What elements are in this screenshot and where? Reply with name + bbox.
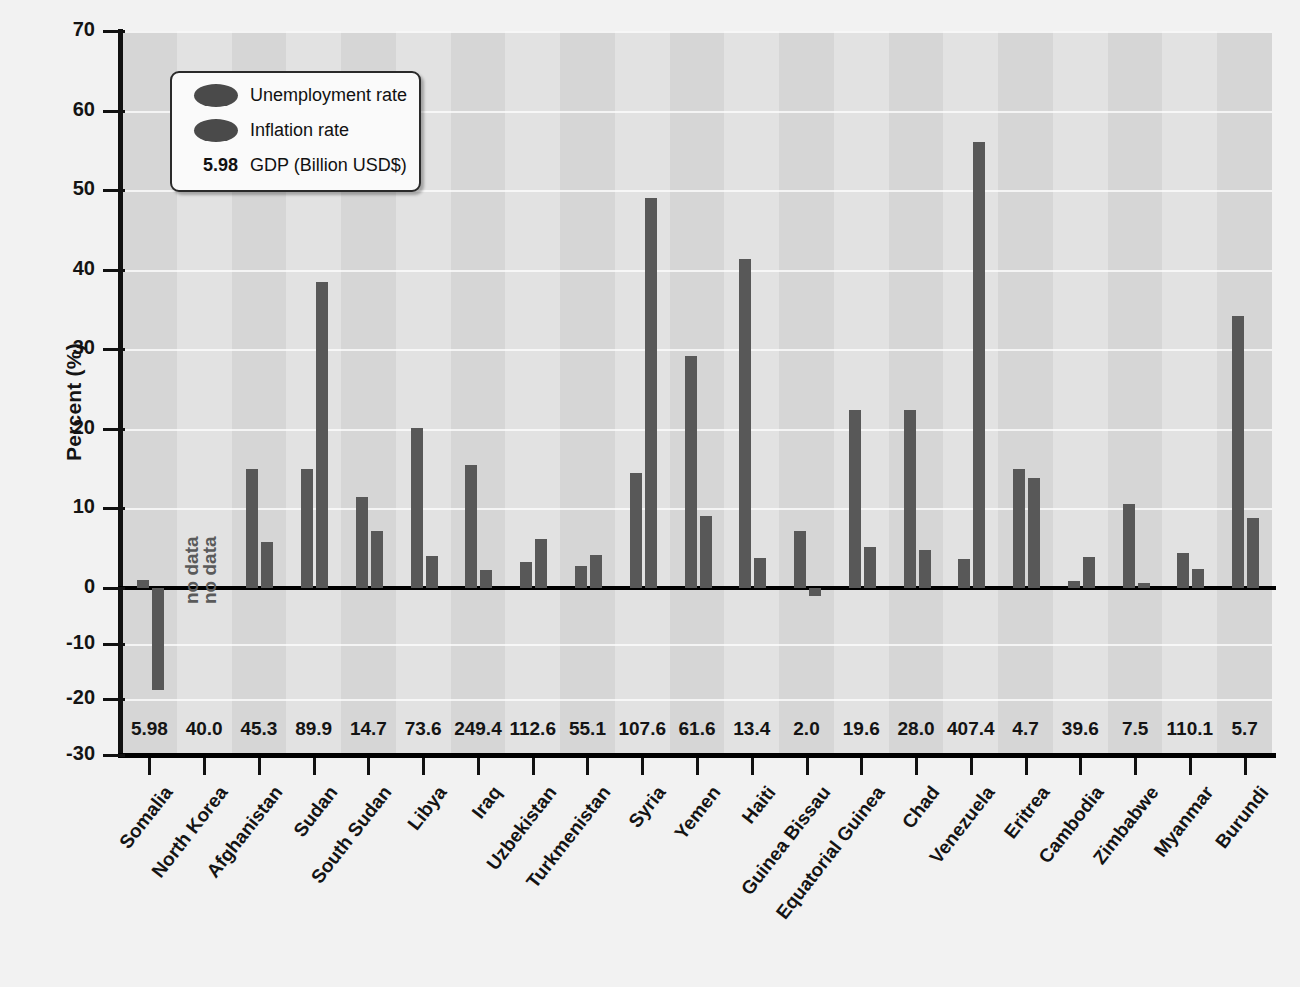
bar bbox=[1192, 569, 1204, 588]
legend-label: GDP (Billion USD$) bbox=[250, 155, 407, 176]
bar bbox=[465, 465, 477, 588]
bar bbox=[316, 282, 328, 588]
x-axis-tick bbox=[1189, 758, 1192, 775]
bar bbox=[1013, 469, 1025, 588]
gridline bbox=[122, 644, 1272, 646]
x-axis-label: Sudan bbox=[289, 782, 342, 841]
bar bbox=[411, 428, 423, 588]
gdp-value: 19.6 bbox=[843, 718, 880, 740]
legend-label: Unemployment rate bbox=[250, 85, 407, 106]
legend-swatch-icon bbox=[194, 119, 238, 142]
bar bbox=[958, 559, 970, 588]
bar bbox=[1247, 518, 1259, 588]
bar bbox=[645, 198, 657, 588]
y-axis-tick bbox=[103, 754, 125, 757]
y-axis-line bbox=[118, 29, 123, 757]
bar bbox=[809, 588, 821, 596]
gridline bbox=[122, 270, 1272, 272]
plot-band bbox=[505, 31, 560, 588]
gdp-value: 45.3 bbox=[240, 718, 277, 740]
clipped-top-text bbox=[0, 0, 1300, 8]
y-axis-tick bbox=[103, 110, 125, 113]
y-axis-tick-label: -30 bbox=[10, 742, 95, 765]
bar bbox=[1232, 316, 1244, 588]
y-axis-tick-label: -10 bbox=[10, 631, 95, 654]
x-axis-tick bbox=[203, 758, 206, 775]
gdp-value: 107.6 bbox=[618, 718, 666, 740]
x-axis-label: Libya bbox=[404, 782, 452, 835]
x-axis-tick bbox=[915, 758, 918, 775]
bar bbox=[794, 531, 806, 588]
bar bbox=[1028, 478, 1040, 588]
gdp-value: 5.98 bbox=[131, 718, 168, 740]
x-axis-tick bbox=[422, 758, 425, 775]
plot-band bbox=[943, 31, 998, 588]
y-axis-tick bbox=[103, 698, 125, 701]
gdp-value: 61.6 bbox=[679, 718, 716, 740]
bar bbox=[371, 531, 383, 588]
y-axis-tick bbox=[103, 587, 125, 590]
bar bbox=[152, 588, 164, 690]
y-axis-tick bbox=[103, 269, 125, 272]
gridline bbox=[122, 508, 1272, 510]
y-axis-tick-label: 0 bbox=[10, 575, 95, 598]
x-axis-tick bbox=[970, 758, 973, 775]
x-axis-label: Burundi bbox=[1211, 782, 1273, 853]
x-axis-label: Eritrea bbox=[999, 782, 1053, 843]
gdp-value: 112.6 bbox=[509, 718, 556, 740]
legend-swatch-icon bbox=[194, 84, 238, 107]
y-axis-tick-label: 60 bbox=[10, 98, 95, 121]
x-axis-tick bbox=[696, 758, 699, 775]
gdp-value: 39.6 bbox=[1062, 718, 1099, 740]
legend-label: Inflation rate bbox=[250, 120, 349, 141]
bar bbox=[575, 566, 587, 588]
plot-band bbox=[615, 31, 670, 588]
x-axis-tick bbox=[860, 758, 863, 775]
no-data-label: no data bbox=[199, 536, 221, 604]
x-axis-tick bbox=[1244, 758, 1247, 775]
bar bbox=[137, 580, 149, 588]
y-axis-tick-label: 20 bbox=[10, 416, 95, 439]
x-axis-label: Chad bbox=[898, 782, 945, 833]
x-axis-tick bbox=[586, 758, 589, 775]
gdp-value: 110.1 bbox=[1167, 718, 1214, 740]
bar bbox=[426, 556, 438, 588]
gdp-value: 407.4 bbox=[947, 718, 995, 740]
plot-band bbox=[1162, 31, 1217, 588]
gridline bbox=[122, 349, 1272, 351]
plot-band bbox=[1053, 31, 1108, 588]
y-axis-tick-label: 30 bbox=[10, 336, 95, 359]
y-axis-tick bbox=[103, 428, 125, 431]
x-axis-label: Haiti bbox=[737, 782, 780, 828]
gridline bbox=[122, 699, 1272, 701]
x-axis-tick bbox=[751, 758, 754, 775]
y-axis-tick-label: -20 bbox=[10, 686, 95, 709]
gdp-value: 249.4 bbox=[454, 718, 502, 740]
chart-legend: Unemployment rate Inflation rate 5.98 GD… bbox=[170, 71, 421, 192]
bar bbox=[590, 555, 602, 588]
bar bbox=[261, 542, 273, 588]
gridline bbox=[122, 429, 1272, 431]
bar bbox=[535, 539, 547, 588]
legend-item-gdp: 5.98 GDP (Billion USD$) bbox=[172, 149, 419, 181]
x-axis-tick bbox=[313, 758, 316, 775]
x-axis-tick bbox=[641, 758, 644, 775]
legend-item-inflation: Inflation rate bbox=[172, 114, 419, 146]
y-axis-tick-label: 50 bbox=[10, 177, 95, 200]
bar bbox=[1083, 557, 1095, 588]
x-axis-tick bbox=[532, 758, 535, 775]
y-axis-tick bbox=[103, 189, 125, 192]
bar bbox=[700, 516, 712, 588]
legend-item-unemployment: Unemployment rate bbox=[172, 79, 419, 111]
x-axis-tick bbox=[477, 758, 480, 775]
y-axis-tick-label: 10 bbox=[10, 495, 95, 518]
x-axis-tick bbox=[258, 758, 261, 775]
plot-band bbox=[724, 31, 779, 588]
x-axis-label: Syria bbox=[625, 782, 671, 832]
gdp-value: 7.5 bbox=[1122, 718, 1148, 740]
bar bbox=[849, 410, 861, 588]
bar bbox=[739, 259, 751, 588]
y-axis-tick bbox=[103, 30, 125, 33]
gdp-value: 28.0 bbox=[898, 718, 935, 740]
bar bbox=[919, 550, 931, 588]
